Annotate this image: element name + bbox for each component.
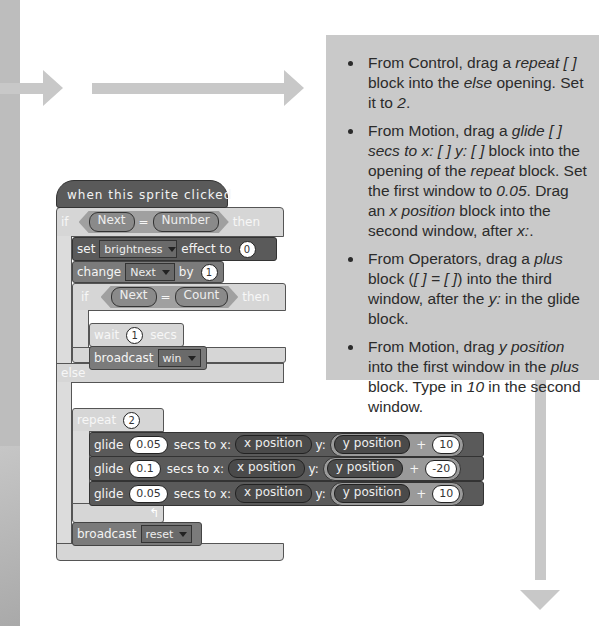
wait-label: wait — [94, 328, 119, 342]
y-position-reporter[interactable]: y position — [327, 459, 403, 478]
wait-block[interactable]: wait 1 secs — [89, 323, 184, 347]
if-else-block[interactable]: if Next = Number then — [56, 207, 284, 237]
instruction-emphasis: else — [464, 74, 492, 91]
arrow-right-icon — [43, 70, 63, 106]
plus-operator-block[interactable]: y position+10 — [330, 433, 465, 457]
broadcast-win-block[interactable]: broadcast win — [89, 346, 207, 370]
instruction-item: From Motion, drag a glide [ ] secs to x:… — [342, 121, 589, 241]
next-variable-reporter[interactable]: Next — [89, 212, 135, 232]
next-variable-reporter[interactable]: Next — [111, 287, 157, 307]
instruction-emphasis: plus — [534, 250, 562, 267]
number-variable-reporter[interactable]: Number — [153, 212, 219, 232]
plus-value-input[interactable]: 10 — [432, 485, 460, 503]
message-dropdown[interactable]: win — [158, 349, 201, 367]
instruction-text: From Motion, drag — [368, 338, 499, 355]
instruction-emphasis: 10 — [467, 378, 484, 395]
effect-dropdown[interactable]: brightness — [99, 240, 177, 258]
variable-dropdown[interactable]: Next — [125, 263, 175, 281]
instruction-text: block. Type in — [368, 378, 467, 395]
equals-condition[interactable]: Next = Number — [79, 211, 229, 233]
by-label: by — [179, 265, 194, 279]
change-value-input[interactable]: 1 — [201, 264, 218, 281]
if-else-spine — [56, 236, 72, 366]
variable-value: Next — [130, 266, 156, 279]
instruction-emphasis: x: — [517, 222, 529, 239]
glide-block[interactable]: glide0.05secs to x:x positiony:y positio… — [89, 432, 484, 457]
glide-label: glide — [94, 462, 123, 476]
instructions-list: From Control, drag a repeat [ ] block in… — [342, 53, 589, 417]
repeat-bottom: ↰ — [72, 503, 164, 523]
repeat-block[interactable]: repeat 2 — [72, 408, 164, 432]
loop-arrow-icon: ↰ — [149, 506, 159, 520]
glide-secs-input[interactable]: 0.1 — [129, 460, 161, 478]
plus-operator-block[interactable]: y position+10 — [330, 482, 465, 506]
arrow-shaft-top — [92, 83, 287, 94]
effect-value: brightness — [104, 243, 162, 256]
dropdown-arrow-icon — [162, 270, 170, 275]
if-keyword: if — [61, 215, 69, 229]
x-position-reporter[interactable]: x position — [235, 484, 311, 503]
plus-sign: + — [416, 438, 426, 452]
instruction-item: From Control, drag a repeat [ ] block in… — [342, 53, 589, 113]
instruction-text: From Motion, drag a — [368, 122, 512, 139]
wait-seconds-input[interactable]: 1 — [126, 327, 143, 344]
instruction-text: block ( — [368, 270, 414, 287]
inner-if-block[interactable]: if Next = Count then — [72, 283, 286, 311]
y-label: y: — [309, 462, 319, 476]
set-label: set — [77, 242, 95, 256]
effect-to-label: effect to — [181, 242, 231, 256]
y-position-reporter[interactable]: y position — [334, 435, 410, 454]
when-sprite-clicked-hat[interactable]: when this sprite clicked — [56, 180, 228, 208]
then-keyword: then — [242, 290, 269, 304]
y-label: y: — [316, 487, 326, 501]
arrow-shaft-left — [0, 83, 46, 94]
dropdown-arrow-icon — [168, 247, 176, 252]
glide-block[interactable]: glide0.05secs to x:x positiony:y positio… — [89, 481, 484, 506]
instruction-emphasis: repeat — [471, 162, 515, 179]
secs-to-x-label: secs to x: — [167, 462, 224, 476]
repeat-spine — [72, 431, 90, 511]
instruction-text: block into the — [368, 74, 464, 91]
instruction-emphasis: y: — [489, 290, 501, 307]
instruction-text: into the first window in the — [368, 358, 551, 375]
instruction-emphasis: [ ] = [ ] — [414, 270, 458, 287]
plus-operator-block[interactable]: y position+-20 — [323, 457, 461, 481]
message-value: reset — [146, 528, 174, 541]
change-variable-block[interactable]: change Next by 1 — [72, 261, 224, 283]
equals-operator: = — [139, 215, 149, 229]
instruction-text: From Control, drag a — [368, 54, 515, 71]
glide-secs-input[interactable]: 0.05 — [129, 436, 168, 454]
count-variable-reporter[interactable]: Count — [175, 287, 229, 307]
plus-value-input[interactable]: -20 — [425, 460, 457, 478]
instruction-emphasis: plus — [551, 358, 579, 375]
instruction-emphasis: 2 — [397, 94, 406, 111]
glide-label: glide — [94, 438, 123, 452]
instruction-emphasis: y position — [499, 338, 564, 355]
broadcast-label: broadcast — [94, 351, 154, 365]
repeat-count-input[interactable]: 2 — [123, 412, 140, 429]
y-label: y: — [316, 438, 326, 452]
inner-if-spine — [72, 310, 89, 350]
plus-sign: + — [409, 462, 419, 476]
arrow-right-icon — [284, 70, 304, 106]
instruction-emphasis: 0.05 — [496, 182, 526, 199]
glide-secs-input[interactable]: 0.05 — [129, 485, 168, 503]
set-effect-block[interactable]: set brightness effect to 0 — [72, 237, 277, 261]
else-keyword: else — [61, 366, 85, 380]
instruction-item: From Motion, drag y position into the fi… — [342, 337, 589, 417]
effect-value-input[interactable]: 0 — [239, 241, 256, 258]
broadcast-reset-block[interactable]: broadcast reset — [72, 522, 202, 546]
repeat-label: repeat — [77, 413, 116, 427]
hat-label: when this sprite clicked — [67, 188, 232, 202]
then-keyword: then — [233, 215, 260, 229]
equals-condition[interactable]: Next = Count — [101, 286, 239, 308]
y-position-reporter[interactable]: y position — [334, 484, 410, 503]
message-dropdown[interactable]: reset — [141, 525, 193, 543]
glide-block[interactable]: glide0.1secs to x:x positiony:y position… — [89, 456, 484, 481]
x-position-reporter[interactable]: x position — [228, 459, 304, 478]
secs-to-x-label: secs to x: — [174, 438, 231, 452]
dropdown-arrow-icon — [188, 356, 196, 361]
change-label: change — [77, 265, 121, 279]
x-position-reporter[interactable]: x position — [235, 435, 311, 454]
plus-value-input[interactable]: 10 — [432, 436, 460, 454]
